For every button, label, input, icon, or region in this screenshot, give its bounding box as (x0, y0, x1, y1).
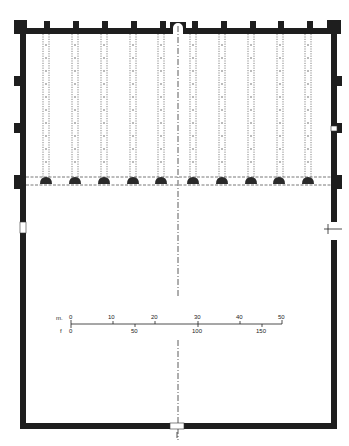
left-door (20, 222, 26, 233)
corridor (305, 34, 311, 177)
corridor (219, 34, 225, 177)
corridor (248, 34, 254, 177)
feet-label: f (60, 328, 62, 334)
corridor (43, 34, 49, 177)
m-tick-50: 50 (278, 314, 285, 320)
column-base (127, 177, 139, 184)
column-base (69, 177, 81, 184)
right-door (331, 222, 337, 240)
floor-plan: m. f 0 10 20 30 40 50 0 50 100 150 (0, 0, 349, 446)
f-tick-100: 100 (192, 328, 203, 334)
openings (20, 126, 337, 429)
m-tick-20: 20 (151, 314, 158, 320)
column-base (245, 177, 257, 184)
m-tick-40: 40 (236, 314, 243, 320)
column-base (273, 177, 285, 184)
f-tick-150: 150 (256, 328, 267, 334)
m-tick-30: 30 (194, 314, 201, 320)
corridor (190, 34, 196, 177)
column-base (216, 177, 228, 184)
right-window (331, 126, 337, 131)
m-tick-10: 10 (108, 314, 115, 320)
corridor (101, 34, 107, 177)
column-corridors (43, 34, 311, 177)
corridor (277, 34, 283, 177)
corridor-dots (45, 44, 308, 162)
corridor (158, 34, 164, 177)
corridor (72, 34, 78, 177)
bottom-door (170, 423, 184, 429)
f-tick-0: 0 (69, 328, 73, 334)
column-base (98, 177, 110, 184)
column-base (40, 177, 52, 184)
column-bases (40, 177, 314, 184)
scale-bar: m. f 0 10 20 30 40 50 0 50 100 150 (56, 314, 285, 334)
corridor (130, 34, 136, 177)
column-base (187, 177, 199, 184)
f-tick-50: 50 (131, 328, 138, 334)
column-base (155, 177, 167, 184)
meters-label: m. (56, 315, 63, 321)
m-tick-0: 0 (69, 314, 73, 320)
column-base (302, 177, 314, 184)
